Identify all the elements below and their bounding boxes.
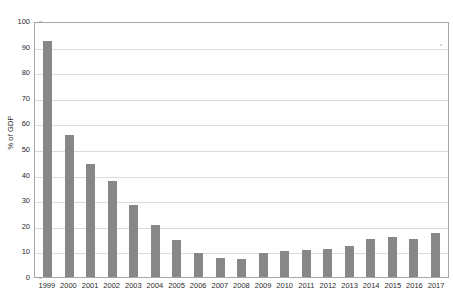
y-tick-label: 0 xyxy=(8,274,30,282)
bar[interactable] xyxy=(409,239,418,277)
bar-series xyxy=(35,23,448,277)
x-tick-label: 2009 xyxy=(252,281,274,290)
x-tick-label: 2016 xyxy=(404,281,426,290)
y-tick-label: 10 xyxy=(8,249,30,257)
bar[interactable] xyxy=(43,41,52,277)
x-tick-label: 2004 xyxy=(144,281,166,290)
bar-slot xyxy=(360,23,382,277)
bar-slot xyxy=(37,23,59,277)
y-tick-label: 60 xyxy=(8,121,30,129)
x-tick-label: 1999 xyxy=(36,281,58,290)
x-tick-label: 2006 xyxy=(187,281,209,290)
x-tick-label: 2014 xyxy=(360,281,382,290)
y-tick-label: 40 xyxy=(8,172,30,180)
y-tick-label: 30 xyxy=(8,197,30,205)
x-tick-label: 2002 xyxy=(101,281,123,290)
bar-slot xyxy=(145,23,167,277)
bar-slot xyxy=(295,23,317,277)
x-tick-label: 2001 xyxy=(79,281,101,290)
bar[interactable] xyxy=(431,233,440,277)
plot-area xyxy=(34,22,449,278)
x-tick-label: 2010 xyxy=(274,281,296,290)
bar-slot xyxy=(231,23,253,277)
x-tick-label: 2007 xyxy=(209,281,231,290)
bar[interactable] xyxy=(280,251,289,277)
bar[interactable] xyxy=(302,250,311,277)
bar-slot xyxy=(338,23,360,277)
bar-chart: % of GDP 0102030405060708090100 19992000… xyxy=(0,0,453,306)
bar-slot xyxy=(59,23,81,277)
bar-slot xyxy=(188,23,210,277)
x-tick-label: 2008 xyxy=(231,281,253,290)
x-tick-label: 2017 xyxy=(425,281,447,290)
x-axis-tick-labels: 1999200020012002200320042005200620072008… xyxy=(34,281,449,290)
bar-slot xyxy=(102,23,124,277)
bar[interactable] xyxy=(108,181,117,277)
y-axis-tick-labels: 0102030405060708090100 xyxy=(8,0,30,306)
y-tick-label: 20 xyxy=(8,223,30,231)
y-tick-label: 90 xyxy=(8,44,30,52)
bar[interactable] xyxy=(388,237,397,277)
bar-slot xyxy=(166,23,188,277)
y-tick-label: 80 xyxy=(8,69,30,77)
bar-slot xyxy=(123,23,145,277)
x-tick-label: 2003 xyxy=(123,281,145,290)
bar[interactable] xyxy=(216,258,225,277)
image-artifact-speck xyxy=(440,44,442,46)
bar[interactable] xyxy=(151,225,160,277)
bar[interactable] xyxy=(172,240,181,277)
y-tick-label: 100 xyxy=(8,18,30,26)
bar-slot xyxy=(425,23,447,277)
x-tick-label: 2000 xyxy=(58,281,80,290)
bar[interactable] xyxy=(259,253,268,277)
x-tick-label: 2015 xyxy=(382,281,404,290)
x-tick-label: 2005 xyxy=(166,281,188,290)
bar[interactable] xyxy=(323,249,332,277)
bar-slot xyxy=(80,23,102,277)
x-tick-label: 2013 xyxy=(339,281,361,290)
bar-slot xyxy=(403,23,425,277)
bar[interactable] xyxy=(366,239,375,277)
bar-slot xyxy=(274,23,296,277)
bar[interactable] xyxy=(194,253,203,277)
y-tick-label: 70 xyxy=(8,95,30,103)
bar[interactable] xyxy=(237,259,246,277)
y-tick-label: 50 xyxy=(8,146,30,154)
bar[interactable] xyxy=(345,246,354,277)
bar-slot xyxy=(317,23,339,277)
bar-slot xyxy=(252,23,274,277)
bar[interactable] xyxy=(86,164,95,277)
bar[interactable] xyxy=(65,135,74,277)
bar-slot xyxy=(382,23,404,277)
x-tick-label: 2011 xyxy=(296,281,318,290)
bar[interactable] xyxy=(129,205,138,277)
bar-slot xyxy=(209,23,231,277)
x-tick-label: 2012 xyxy=(317,281,339,290)
